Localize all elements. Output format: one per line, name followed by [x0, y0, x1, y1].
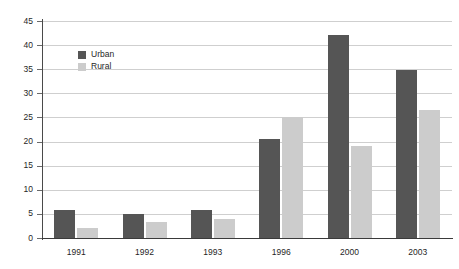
- x-axis-tick-label: 1992: [110, 248, 178, 257]
- legend-label: Rural: [91, 62, 111, 71]
- bar-urban-1996: [259, 139, 280, 238]
- bar-urban-1991: [54, 210, 75, 238]
- y-axis-tick-label: 0: [0, 234, 33, 243]
- y-axis-tick-label: 45: [0, 17, 33, 26]
- bar-urban-1992: [123, 214, 144, 238]
- bar-urban-2003: [396, 70, 417, 238]
- y-axis-tick-mark: [37, 117, 42, 118]
- y-axis-line: [42, 19, 43, 240]
- legend-label: Urban: [91, 50, 114, 59]
- y-axis-tick-label: 25: [0, 113, 33, 122]
- bar-rural-1993: [214, 219, 235, 238]
- bar-chart-figure: 0510152025303540451991199219931996200020…: [0, 0, 459, 269]
- y-axis-tick-mark: [37, 21, 42, 22]
- y-axis-tick-mark: [37, 69, 42, 70]
- bar-rural-1996: [282, 117, 303, 238]
- x-axis-tick-label: 1991: [42, 248, 110, 257]
- y-axis-tick-mark: [37, 166, 42, 167]
- y-axis-tick-label: 5: [0, 209, 33, 218]
- y-axis-tick-mark: [37, 214, 42, 215]
- y-axis-tick-label: 30: [0, 89, 33, 98]
- gridline: [42, 214, 452, 215]
- gridline: [42, 45, 452, 46]
- bar-urban-2000: [328, 35, 349, 238]
- y-axis-tick-label: 35: [0, 65, 33, 74]
- x-axis-tick-label: 1996: [247, 248, 315, 257]
- y-axis-tick-label: 20: [0, 137, 33, 146]
- gridline: [42, 166, 452, 167]
- x-axis-tick-label: 1993: [179, 248, 247, 257]
- bar-rural-2000: [351, 146, 372, 238]
- gridline: [42, 190, 452, 191]
- bar-rural-1991: [77, 228, 98, 238]
- y-axis-tick-mark: [37, 190, 42, 191]
- gridline: [42, 142, 452, 143]
- chart-legend: UrbanRural: [78, 50, 114, 71]
- bar-rural-2003: [419, 110, 440, 238]
- y-axis-tick-mark: [37, 238, 42, 239]
- y-axis-tick-mark: [37, 93, 42, 94]
- y-axis-tick-mark: [37, 45, 42, 46]
- bar-urban-1993: [191, 210, 212, 238]
- bar-rural-1992: [146, 222, 167, 238]
- x-axis-line: [42, 238, 453, 239]
- y-axis-tick-label: 40: [0, 41, 33, 50]
- legend-item-urban: Urban: [78, 50, 114, 59]
- x-axis-tick-label: 2000: [315, 248, 383, 257]
- y-axis-tick-mark: [37, 142, 42, 143]
- y-axis-tick-label: 10: [0, 185, 33, 194]
- x-axis-tick-label: 2003: [384, 248, 452, 257]
- gridline: [42, 117, 452, 118]
- legend-swatch-icon: [78, 63, 86, 71]
- legend-swatch-icon: [78, 51, 86, 59]
- gridline: [42, 93, 452, 94]
- y-axis-tick-label: 15: [0, 161, 33, 170]
- legend-item-rural: Rural: [78, 62, 114, 71]
- gridline: [42, 21, 452, 22]
